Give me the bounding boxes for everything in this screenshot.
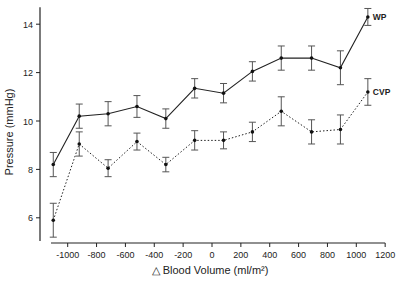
data-point [164, 163, 168, 167]
cvp-line [53, 92, 368, 220]
data-point [51, 218, 55, 222]
data-point [222, 91, 226, 95]
series-label-wp: WP [373, 12, 387, 22]
data-point [77, 114, 81, 118]
data-point [279, 56, 283, 60]
x-tick-label: -400 [145, 250, 163, 260]
y-tick-label: 10 [23, 117, 33, 127]
x-axis-title: △ Blood Volume (ml/m²) [152, 264, 269, 276]
y-tick-label: 8 [28, 165, 33, 175]
data-point [310, 130, 314, 134]
pressure-vs-blood-volume-chart: 68101214 -1000-800-600-400-2000200400600… [0, 0, 403, 286]
data-point [251, 130, 255, 134]
x-tick-label: -200 [174, 250, 192, 260]
data-point [251, 70, 255, 74]
data-point [310, 56, 314, 60]
data-point [193, 87, 197, 91]
y-tick-label: 12 [23, 68, 33, 78]
y-tick-label: 14 [23, 20, 33, 30]
x-tick-label: 200 [233, 250, 248, 260]
y-tick-label: 6 [28, 213, 33, 223]
data-point [106, 112, 110, 116]
x-tick-label: 0 [209, 250, 214, 260]
x-tick-label: -800 [88, 250, 106, 260]
data-point [193, 139, 197, 143]
data-point [222, 139, 226, 143]
data-point [135, 140, 139, 144]
series-layer: WPCVP [50, 8, 391, 237]
data-point [366, 15, 370, 19]
data-point [339, 66, 343, 70]
x-tick-label: 1200 [375, 250, 395, 260]
x-tick-label: 600 [291, 250, 306, 260]
y-axis-title: Pressure (mmHg) [3, 89, 15, 176]
data-point [77, 142, 81, 146]
series-label-cvp: CVP [373, 87, 391, 97]
data-point [279, 110, 283, 114]
data-point [164, 117, 168, 121]
wp-line [53, 17, 368, 165]
x-axis: -1000-800-600-400-2000200400600800100012… [51, 243, 395, 260]
data-point [51, 163, 55, 167]
data-point [106, 166, 110, 170]
x-tick-label: 800 [320, 250, 335, 260]
x-tick-label: 400 [262, 250, 277, 260]
data-point [135, 105, 139, 109]
series-wp: WP [50, 8, 387, 176]
data-point [339, 128, 343, 132]
data-point [366, 90, 370, 94]
x-tick-label: 1000 [346, 250, 366, 260]
x-tick-label: -1000 [56, 250, 79, 260]
y-axis: 68101214 [23, 7, 40, 241]
x-tick-label: -600 [116, 250, 134, 260]
